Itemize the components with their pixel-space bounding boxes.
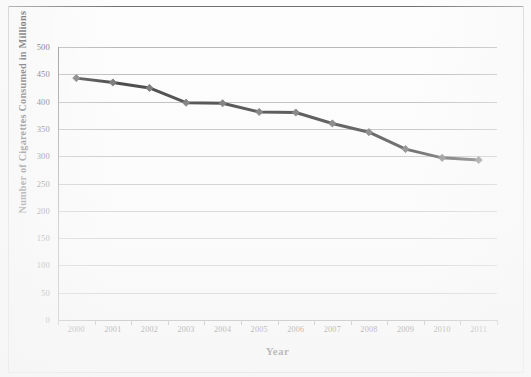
y-tick-label-150: 150 bbox=[4, 233, 50, 243]
x-tick-label-2011: 2011 bbox=[459, 325, 499, 334]
data-point-2010 bbox=[439, 154, 446, 161]
y-tick-label-50: 50 bbox=[4, 288, 50, 298]
x-tick-label-2005: 2005 bbox=[239, 325, 279, 334]
x-tick-label-2003: 2003 bbox=[166, 325, 206, 334]
series-line bbox=[76, 78, 478, 160]
x-tick-label-2006: 2006 bbox=[276, 325, 316, 334]
x-tick-label-2001: 2001 bbox=[93, 325, 133, 334]
data-point-2007 bbox=[329, 120, 336, 127]
data-point-2001 bbox=[109, 79, 116, 86]
x-axis-title: Year bbox=[58, 345, 497, 357]
y-tick-label-0: 0 bbox=[4, 315, 50, 325]
data-point-2011 bbox=[475, 156, 482, 163]
x-tick-label-2000: 2000 bbox=[56, 325, 96, 334]
x-tick-label-2009: 2009 bbox=[386, 325, 426, 334]
x-tick-label-2004: 2004 bbox=[203, 325, 243, 334]
data-point-2004 bbox=[219, 100, 226, 107]
x-tick-label-2008: 2008 bbox=[349, 325, 389, 334]
line-chart: 500450400350300250200150100500 200020012… bbox=[0, 0, 531, 377]
x-tick-label-2010: 2010 bbox=[422, 325, 462, 334]
data-point-2006 bbox=[292, 109, 299, 116]
data-point-2005 bbox=[256, 108, 263, 115]
data-series-cigarettes bbox=[58, 47, 497, 320]
x-tick-label-2007: 2007 bbox=[312, 325, 352, 334]
figure-page: 500450400350300250200150100500 200020012… bbox=[0, 0, 531, 377]
y-tick-label-100: 100 bbox=[4, 260, 50, 270]
x-tick-label-2002: 2002 bbox=[129, 325, 169, 334]
data-point-2000 bbox=[73, 75, 80, 82]
y-axis-title: Number of Cigarettes Consumed in Million… bbox=[17, 14, 28, 214]
